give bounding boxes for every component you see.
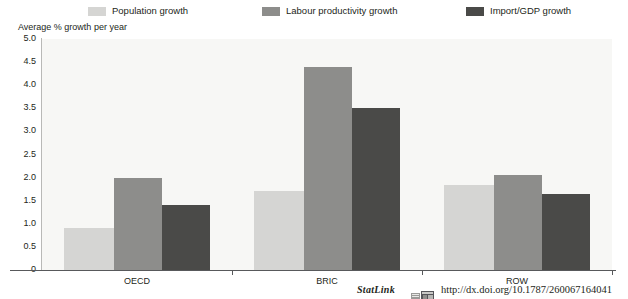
y-axis-tick-label: 5.0 <box>0 33 36 43</box>
y-axis-tick-label: 3.0 <box>0 125 36 135</box>
x-axis-line <box>10 270 616 271</box>
y-axis-tick-label: 2.0 <box>0 172 36 182</box>
bar-row-series-0 <box>444 185 494 270</box>
y-axis-title: Average % growth per year <box>18 22 127 32</box>
y-axis-tick-label: 1.5 <box>0 195 36 205</box>
statlink-label: StatLink <box>357 284 395 295</box>
statlink-excel-icon <box>411 286 435 295</box>
bar-oecd-series-0 <box>64 228 114 270</box>
y-axis-tick-label: 3.5 <box>0 102 36 112</box>
plot-area <box>42 39 612 270</box>
chart-legend: Population growth Labour productivity gr… <box>0 4 628 20</box>
bar-row-series-1 <box>494 175 542 270</box>
y-axis-tick-label: 0 <box>0 264 36 274</box>
bar-bric-series-0 <box>254 191 304 270</box>
legend-item-import-gdp-growth: Import/GDP growth <box>466 4 571 18</box>
y-axis-tick-label: 4.5 <box>0 56 36 66</box>
legend-swatch-import-gdp-growth <box>466 7 484 16</box>
legend-label-labour-productivity-growth: Labour productivity growth <box>286 6 397 16</box>
bar-row-series-2 <box>542 194 590 270</box>
legend-label-population-growth: Population growth <box>112 6 188 16</box>
bar-chart: Population growth Labour productivity gr… <box>0 0 628 299</box>
statlink-url[interactable]: http://dx.doi.org/10.1787/260067164041 <box>441 284 612 295</box>
legend-item-labour-productivity-growth: Labour productivity growth <box>262 4 397 18</box>
bar-bric-series-1 <box>304 67 352 270</box>
statlink-footer: StatLink http://dx.doi.org/10.1787/26006… <box>0 284 628 299</box>
y-axis-tick-label: 0.5 <box>0 241 36 251</box>
y-axis-tick-label: 1.0 <box>0 218 36 228</box>
bar-oecd-series-2 <box>162 205 210 270</box>
bar-oecd-series-1 <box>114 178 162 270</box>
x-axis-tick-mark <box>422 271 423 275</box>
legend-label-import-gdp-growth: Import/GDP growth <box>490 6 571 16</box>
legend-swatch-labour-productivity-growth <box>262 7 280 16</box>
bar-bric-series-2 <box>352 108 400 270</box>
legend-swatch-population-growth <box>88 7 106 16</box>
y-axis-tick-label: 2.5 <box>0 149 36 159</box>
y-axis-tick-label: 4.0 <box>0 79 36 89</box>
x-axis-tick-mark <box>232 271 233 275</box>
legend-item-population-growth: Population growth <box>88 4 188 18</box>
x-axis-tick-mark <box>612 271 613 275</box>
